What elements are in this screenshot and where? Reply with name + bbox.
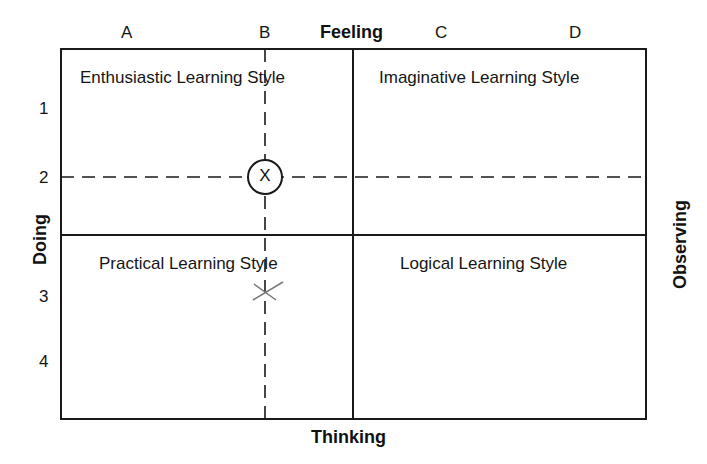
row-label-3: 3 (39, 287, 48, 307)
axis-label-feeling: Feeling (320, 22, 383, 43)
axis-label-thinking: Thinking (311, 427, 386, 448)
row-label-2: 2 (39, 168, 48, 188)
axis-label-observing: Observing (670, 195, 691, 295)
column-label-d: D (569, 23, 581, 43)
quadrant-title-logical: Logical Learning Style (400, 254, 567, 274)
quadrant-title-imaginative: Imaginative Learning Style (379, 68, 579, 88)
column-label-a: A (121, 23, 132, 43)
circle-marker-label: X (258, 166, 272, 186)
pencil-x-marker-icon (253, 282, 283, 300)
row-label-4: 4 (39, 352, 48, 372)
column-label-b: B (259, 23, 270, 43)
quadrant-title-enthusiastic: Enthusiastic Learning Style (80, 68, 285, 88)
column-label-c: C (435, 23, 447, 43)
row-label-1: 1 (39, 99, 48, 119)
quadrant-title-practical: Practical Learning Style (99, 254, 278, 274)
axis-label-doing: Doing (30, 210, 51, 270)
